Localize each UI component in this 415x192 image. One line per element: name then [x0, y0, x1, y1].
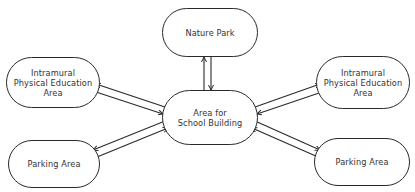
node-label: Nature Park — [185, 28, 234, 38]
node-label-line-2: Physical Education — [14, 78, 92, 88]
node-label: Parking Area — [336, 157, 389, 167]
node-intramural-pe-area-right: Intramural Physical Education Area — [316, 56, 410, 109]
node-label: Parking Area — [28, 159, 81, 169]
connector-intramural-left — [96, 84, 165, 114]
node-parking-area-right: Parking Area — [314, 138, 410, 186]
node-label-line-1: Intramural — [31, 68, 75, 78]
node-parking-area-left: Parking Area — [8, 140, 100, 188]
node-label-line-1: Intramural — [341, 68, 385, 78]
connector-parking-right — [252, 121, 320, 157]
node-label-line-3: Area — [43, 88, 62, 98]
node-label-line-3: Area — [353, 88, 372, 98]
connector-parking-left — [93, 121, 168, 157]
node-label-line-2: Physical Education — [324, 78, 402, 88]
node-intramural-pe-area-left: Intramural Physical Education Area — [6, 57, 100, 108]
connector-nature-park — [204, 57, 211, 90]
node-nature-park: Nature Park — [162, 8, 258, 57]
node-label-line-2: School Building — [178, 118, 243, 128]
node-label-line-1: Area for — [193, 108, 227, 118]
site-relationship-diagram: Nature Park Area for School Building Int… — [0, 0, 415, 192]
node-school-building-area: Area for School Building — [162, 90, 258, 145]
connector-intramural-right — [255, 84, 322, 114]
